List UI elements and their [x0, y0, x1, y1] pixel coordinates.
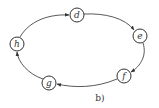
- node-h: h: [10, 37, 24, 51]
- node-f: f: [117, 69, 131, 83]
- node-d-label: d: [74, 10, 80, 20]
- node-e: e: [133, 29, 147, 43]
- edge-h-to-d: [20, 15, 69, 37]
- cycle-diagram: d e f g h b): [0, 0, 159, 108]
- node-g: g: [42, 76, 56, 90]
- edge-f-to-g: [57, 79, 117, 87]
- edge-d-to-e: [84, 14, 134, 30]
- node-g-label: g: [46, 78, 52, 88]
- diagram-caption: b): [95, 93, 104, 103]
- node-d: d: [70, 8, 84, 22]
- edge-g-to-h: [17, 52, 43, 79]
- node-h-label: h: [14, 39, 20, 49]
- node-e-label: e: [137, 31, 142, 41]
- edge-e-to-f: [131, 43, 144, 72]
